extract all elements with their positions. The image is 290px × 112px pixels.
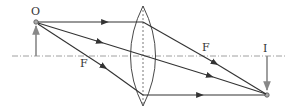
object-point: [34, 20, 38, 24]
focus-left-label: F: [80, 57, 88, 70]
object-label: O: [31, 5, 40, 18]
image-label: I: [263, 42, 267, 55]
focus-right-label: F: [202, 41, 210, 54]
lens-ray-diagram: O I F F: [0, 0, 290, 112]
